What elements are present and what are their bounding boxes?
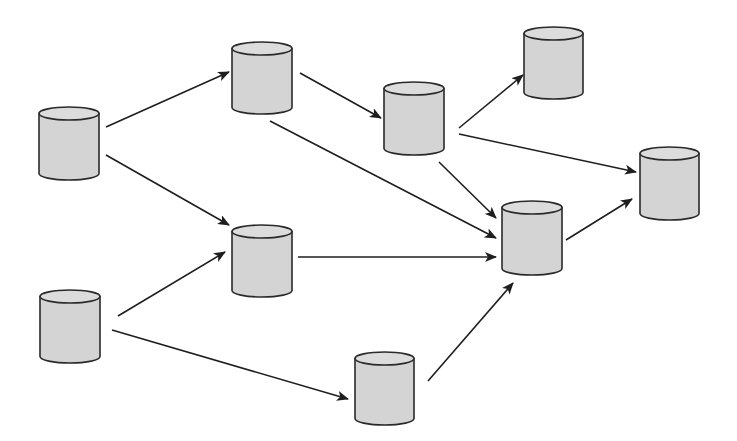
- cylinder-top: [640, 147, 699, 160]
- edge-arrow-n5-n7: [459, 75, 523, 128]
- network-diagram: [0, 0, 737, 441]
- database-cylinder-icon: [40, 290, 100, 363]
- cylinder-body: [384, 89, 444, 156]
- cylinder-body: [502, 208, 562, 276]
- database-cylinder-icon: [39, 107, 99, 180]
- database-cylinder-icon: [384, 82, 444, 155]
- cylinder-top: [232, 225, 292, 238]
- edge-arrow-n2-n4: [118, 252, 225, 316]
- cylinder-body: [640, 154, 699, 221]
- cylinder-body: [40, 297, 100, 364]
- cylinder-top: [524, 27, 583, 40]
- database-cylinder-icon: [232, 225, 292, 297]
- edge-arrow-n6-n8: [428, 283, 513, 381]
- cylinder-body: [39, 114, 99, 181]
- cylinder-top: [502, 201, 562, 214]
- cylinder-body: [232, 232, 292, 298]
- cylinder-body: [524, 34, 583, 100]
- edge-arrow-n1-n3: [106, 72, 229, 127]
- cylinder-top: [384, 82, 444, 95]
- edge-arrow-n2-n6: [112, 330, 348, 399]
- edge-arrow-n8-n9: [566, 199, 632, 240]
- cylinder-top: [39, 107, 99, 120]
- cylinder-body: [355, 359, 414, 426]
- database-cylinder-icon: [640, 147, 699, 220]
- cylinder-top: [232, 42, 292, 55]
- edge-arrow-n3-n5: [300, 73, 381, 118]
- cylinder-top: [40, 290, 100, 303]
- database-cylinder-icon: [502, 201, 562, 275]
- nodes-layer: [39, 27, 699, 425]
- edge-arrow-n5-n9: [459, 134, 636, 172]
- database-cylinder-icon: [355, 352, 414, 425]
- edge-arrow-n1-n4: [106, 155, 229, 225]
- edge-arrow-n5-n8: [439, 162, 496, 218]
- cylinder-body: [232, 49, 292, 115]
- cylinder-top: [355, 352, 414, 365]
- database-cylinder-icon: [524, 27, 583, 99]
- database-cylinder-icon: [232, 42, 292, 114]
- edge-arrow-n3-n8: [270, 121, 496, 238]
